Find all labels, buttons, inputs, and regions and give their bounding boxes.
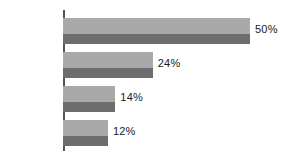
bar-newspaper [63,52,153,78]
bar-other [63,120,108,146]
bar-value-label: 14% [120,91,143,103]
bar-television [63,18,250,44]
bar-radio [63,86,115,112]
bar-row: Television 50% [63,18,250,44]
plot-area: Television 50% Newspaper 24% Radio 14% [0,0,288,159]
bar-value-label: 50% [255,23,278,35]
bar-segment-dark [63,136,108,146]
bar-segment-light [63,120,108,136]
bar-segment-dark [63,68,153,78]
bar-segment-dark [63,102,115,112]
bar-segment-light [63,86,115,102]
bar-chart: Television 50% Newspaper 24% Radio 14% [0,0,288,159]
bar-row: Radio 14% [63,86,115,112]
bar-row: Other 12% [63,120,108,146]
bar-value-label: 12% [113,125,136,137]
bar-segment-light [63,52,153,68]
bar-row: Newspaper 24% [63,52,153,78]
bar-value-label: 24% [158,57,181,69]
bar-segment-light [63,18,250,34]
bar-segment-dark [63,34,250,44]
